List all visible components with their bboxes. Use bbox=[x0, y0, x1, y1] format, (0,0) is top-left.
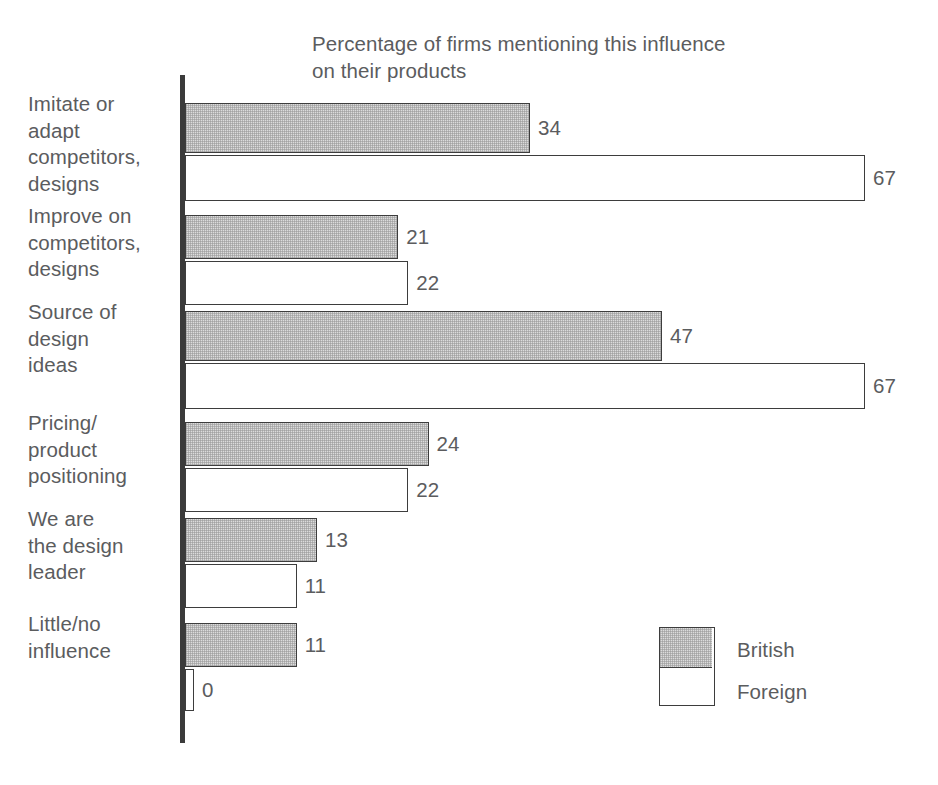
bar-value-foreign: 22 bbox=[416, 273, 439, 294]
plot-area: 34672122476724221311110 bbox=[185, 75, 935, 745]
bar-british bbox=[185, 518, 317, 562]
legend-swatch-foreign bbox=[660, 668, 712, 703]
bar-british bbox=[185, 623, 297, 667]
bar-foreign bbox=[185, 669, 194, 711]
bar-foreign bbox=[185, 155, 865, 201]
legend-swatch-british bbox=[660, 628, 712, 668]
legend-label-british: British bbox=[737, 640, 795, 661]
bar-foreign bbox=[185, 363, 865, 409]
bar-british bbox=[185, 311, 662, 361]
bar-foreign bbox=[185, 261, 408, 305]
bar-value-british: 34 bbox=[538, 118, 561, 139]
bar-british bbox=[185, 215, 398, 259]
bar-value-british: 13 bbox=[325, 530, 348, 551]
category-label: Source of design ideas bbox=[28, 299, 178, 379]
category-label: We are the design leader bbox=[28, 506, 178, 586]
category-label: Improve on competitors, designs bbox=[28, 203, 178, 283]
category-label: Pricing/ product positioning bbox=[28, 410, 178, 490]
bar-value-foreign: 0 bbox=[202, 680, 214, 701]
bar-chart: Percentage of firms mentioning this infl… bbox=[0, 0, 938, 785]
bar-value-foreign: 67 bbox=[873, 376, 896, 397]
legend-swatch-box bbox=[659, 627, 715, 706]
category-label-column: Imitate or adapt competitors, designsImp… bbox=[48, 75, 178, 745]
bar-foreign bbox=[185, 564, 297, 608]
bar-value-foreign: 22 bbox=[416, 480, 439, 501]
bar-value-british: 21 bbox=[406, 227, 429, 248]
bar-value-foreign: 11 bbox=[305, 576, 326, 597]
bar-value-british: 47 bbox=[670, 326, 693, 347]
legend-label-foreign: Foreign bbox=[737, 682, 807, 703]
category-label: Imitate or adapt competitors, designs bbox=[28, 91, 178, 197]
category-label: Little/no influence bbox=[28, 611, 178, 664]
bar-value-foreign: 67 bbox=[873, 168, 896, 189]
bar-value-british: 24 bbox=[437, 434, 460, 455]
bar-foreign bbox=[185, 468, 408, 512]
bar-british bbox=[185, 103, 530, 153]
bar-value-british: 11 bbox=[305, 635, 326, 656]
bar-british bbox=[185, 422, 429, 466]
